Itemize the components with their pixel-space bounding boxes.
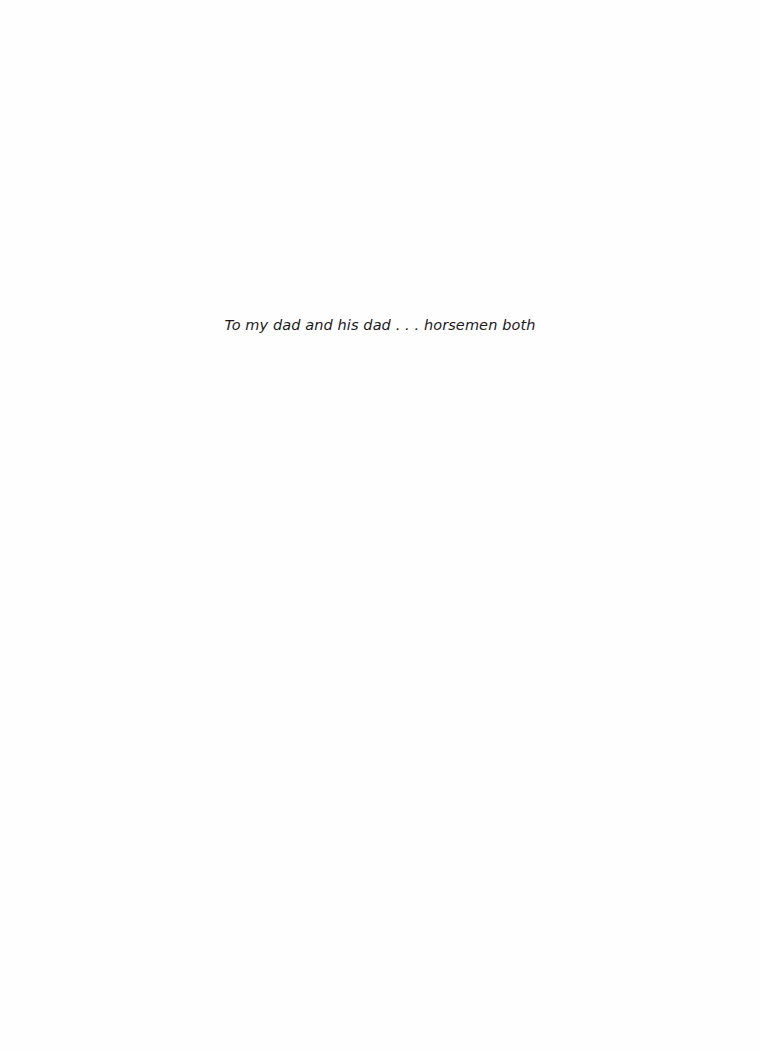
book-page: To my dad and his dad . . . horsemen bot… <box>0 0 760 1050</box>
dedication-text: To my dad and his dad . . . horsemen bot… <box>0 317 760 333</box>
